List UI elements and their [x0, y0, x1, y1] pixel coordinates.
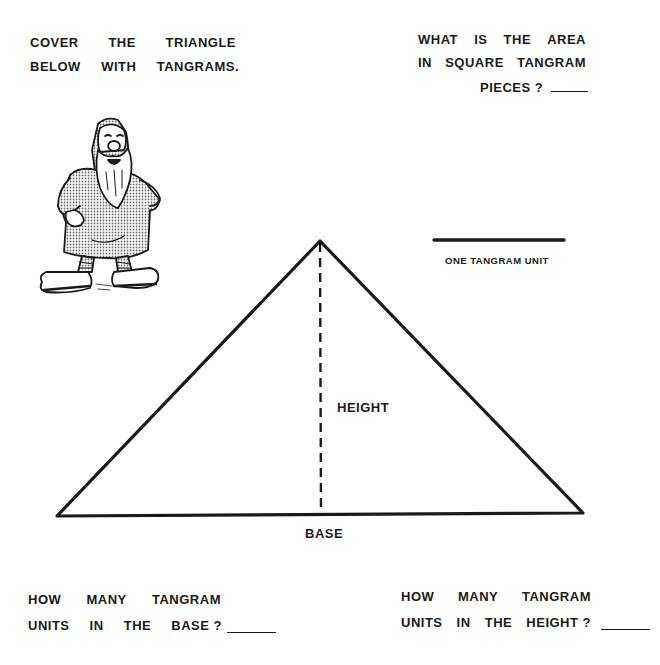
question-word: UNITS: [401, 616, 443, 629]
instruction-line-1: COVER THE TRIANGLE: [30, 36, 236, 49]
question-word: IS: [474, 33, 487, 46]
question-word: THE: [124, 619, 152, 632]
question-word: BASE ?: [171, 619, 222, 632]
height-dashed-line: [320, 243, 321, 514]
question-word: THE: [504, 33, 532, 46]
instruction-word: TANGRAMS.: [157, 60, 239, 73]
instruction-word: COVER: [30, 36, 79, 49]
area-question-line-3: PIECES ?: [480, 80, 588, 94]
question-word: TANGRAM: [152, 593, 221, 606]
question-word: SQUARE: [445, 56, 504, 69]
area-question-line-1: WHAT IS THE AREA: [418, 33, 586, 46]
instruction-line-2: BELOW WITH TANGRAMS.: [30, 60, 239, 73]
area-question-pieces: PIECES ?: [480, 80, 543, 95]
area-question-line-2: IN SQUARE TANGRAM: [418, 56, 586, 69]
instruction-word: BELOW: [30, 60, 81, 73]
question-word: MANY: [87, 593, 127, 606]
gnome-illustration: [41, 119, 160, 293]
question-word: IN: [418, 56, 432, 69]
instruction-word: WITH: [101, 60, 136, 73]
instruction-word: TRIANGLE: [166, 36, 236, 49]
question-word: HOW: [28, 593, 61, 606]
area-answer-blank[interactable]: [551, 80, 588, 92]
base-question-line-2: UNITS IN THE BASE ?: [28, 619, 222, 632]
question-word: UNITS: [28, 619, 70, 632]
base-label: BASE: [305, 527, 343, 540]
question-word: WHAT: [418, 33, 458, 46]
worksheet-drawing: [0, 0, 660, 665]
question-word: TANGRAM: [522, 590, 591, 603]
instruction-word: THE: [108, 36, 136, 49]
tangram-unit-label: ONE TANGRAM UNIT: [445, 256, 549, 266]
question-word: AREA: [547, 33, 586, 46]
question-word: THE: [485, 616, 513, 629]
height-label: HEIGHT: [337, 401, 389, 414]
question-word: HEIGHT ?: [526, 616, 591, 629]
height-question-line-1: HOW MANY TANGRAM: [401, 590, 591, 603]
question-word: IN: [90, 619, 104, 632]
base-answer-blank[interactable]: [227, 621, 276, 633]
base-question-line-1: HOW MANY TANGRAM: [28, 593, 221, 606]
question-word: TANGRAM: [517, 56, 586, 69]
question-word: IN: [457, 616, 471, 629]
height-question-line-2: UNITS IN THE HEIGHT ?: [401, 616, 591, 629]
height-answer-blank[interactable]: [601, 618, 650, 630]
question-word: MANY: [458, 590, 498, 603]
question-word: HOW: [401, 590, 434, 603]
